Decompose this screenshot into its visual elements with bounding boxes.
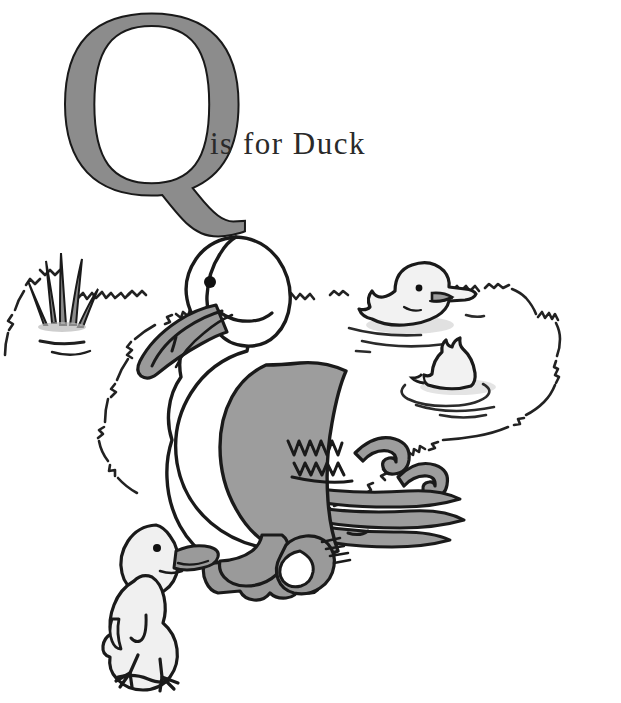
illustration-canvas <box>0 215 621 703</box>
mother-duck <box>0 215 464 600</box>
duck-pond-illustration <box>0 215 621 703</box>
drop-cap-letter-q: Q <box>55 0 255 209</box>
reeds <box>28 253 98 355</box>
headline: Q is for Duck <box>0 0 621 225</box>
illustration-page: Q is for Duck <box>0 0 621 703</box>
duck-wing <box>220 363 346 557</box>
duckling-eye <box>153 544 161 552</box>
duckling-swimming-upper <box>349 263 484 352</box>
duckling-swimming-lower <box>402 338 496 418</box>
duck-eye <box>204 276 216 288</box>
duckling-foreground <box>93 525 219 691</box>
page-title: is for Duck <box>210 126 366 162</box>
